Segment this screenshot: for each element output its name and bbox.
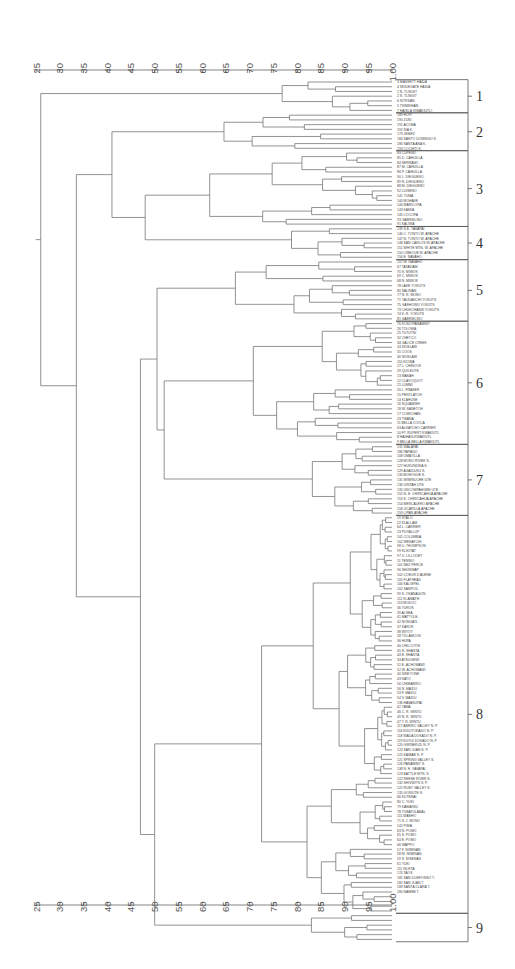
- leaf-label: 130 BOHOGUE S.: [397, 473, 425, 477]
- leaf-label: 13 MAKAH: [397, 374, 414, 378]
- leaf-label: 16 SQUAMISH: [397, 402, 420, 406]
- leaf-label: 38 WIYOT: [397, 630, 413, 634]
- leaf-label: 57 F. NISENAN: [397, 848, 421, 852]
- leaf-label: 45 N. SHASTA: [397, 649, 420, 653]
- leaf-label: 7 HAISLA (KWAKIUTL): [397, 109, 432, 113]
- leaf-label: 25 TUTUTNI: [397, 331, 416, 335]
- axis-tick-label: 30: [54, 63, 65, 74]
- axis-tick-label: 90: [339, 901, 350, 912]
- leaf-label: 170 TAOS: [397, 871, 413, 875]
- leaf-label: 58 M. NISENAN: [397, 852, 422, 856]
- leaf-label: 108 UMATILLA: [397, 454, 421, 458]
- leaf-label: 78 LAKE YOKUTS: [397, 284, 426, 288]
- leaf-label: 37 KAROK: [397, 625, 414, 629]
- leaf-label: 138 N. E. YAVAPAI: [397, 767, 426, 771]
- leaf-label: 63 N. POMO: [397, 829, 417, 833]
- leaf-label: 115 WASHO: [397, 814, 416, 818]
- similarity-axis-top: 2530354045505560657075808590951.00: [31, 63, 398, 82]
- leaf-label: 64 E. POMO: [397, 838, 417, 842]
- leaf-label: 68 N. MIWOK: [397, 279, 419, 283]
- axis-tick-label: 50: [149, 63, 160, 74]
- leaf-label: 120 GWINEKUD N. P.: [397, 743, 431, 747]
- leaf-label: 144 MARICOPA: [397, 203, 422, 207]
- leaf-label: 66 KUTENAI: [397, 795, 416, 799]
- leaf-label: 29 QUILEUTE: [397, 369, 419, 373]
- leaf-label: 193 COCHITI K.: [397, 147, 422, 151]
- leaf-label: 186 PAPAGO: [397, 450, 418, 454]
- leaf-label: 70 S. MIWOK: [397, 270, 418, 274]
- leaf-label: 157 W. NAVAHO: [397, 260, 423, 264]
- leaf-label: 152 N. E. CHIRICAHUA APACHE: [397, 492, 448, 496]
- leaf-label: 135 UNCOMPAHGRE UTE: [397, 488, 439, 492]
- leaf-label: 2 S. TLINGIT: [397, 94, 417, 98]
- axis-tick-label: 80: [292, 901, 303, 912]
- leaf-label: 41 MATTOLE: [397, 615, 418, 619]
- leaf-label: 61 YUKI: [397, 862, 410, 866]
- leaf-label: 40 CHILCOTIN: [397, 644, 421, 648]
- leaf-label: 98 U. THOMPSON: [397, 544, 426, 548]
- axis-tick-label: 85: [315, 901, 326, 912]
- leaf-label: 150 CIBECUE W. APACHE: [397, 251, 439, 255]
- leaf-label: 17 COWICHAN: [397, 412, 421, 416]
- leaf-label: 148 SAN CARLOS W. APACHE: [397, 241, 446, 245]
- leaf-label: 131 WALAPAI: [397, 445, 418, 449]
- leaf-label: 97 U. LILLOOET: [397, 554, 422, 558]
- leaf-label: 11 BELLA COOLA: [397, 421, 425, 425]
- leaf-label: 51 E. ACHOMAWI: [397, 663, 425, 667]
- leaf-label: 102 COEUR D'ALENE: [397, 573, 432, 577]
- leaf-label: 153 S. CHIRICAHUA APACHE: [397, 497, 444, 501]
- leaf-label: 46 C. R. WINTU: [397, 710, 422, 714]
- leaf-label: 129 AGAIDUKU S.: [397, 469, 425, 473]
- leaf-label: 102 WENATCHI: [397, 540, 421, 544]
- leaf-label: 146 C. TONTO W. APACHE: [397, 232, 440, 236]
- leaf-label: 65 S. POMO: [397, 833, 417, 837]
- axis-tick-label: 30: [54, 901, 65, 912]
- leaf-label: 6 SITKSAN: [397, 99, 415, 103]
- leaf-label: 77 N. R. MONO: [397, 293, 421, 297]
- leaf-label: 131 WIMINUCHE UTE: [397, 478, 432, 482]
- leaf-label: 34 GALICE CREEK: [397, 341, 428, 345]
- leaf-label: 75 GASHOWU YOKUTS: [397, 303, 435, 307]
- axis-tick-label: 70: [244, 63, 255, 74]
- axis-tick-label: 40: [102, 63, 113, 74]
- leaf-label: 123 BATTLE MTN. S.: [397, 772, 430, 776]
- cluster-number: 6: [476, 376, 483, 391]
- leaf-label: 87 M. CAHUILLA: [397, 165, 424, 169]
- axis-tick-label: 60: [197, 901, 208, 912]
- axis-tick-label: 90: [339, 63, 350, 74]
- leaf-label: 18 W. SANETCH: [397, 407, 423, 411]
- leaf-label: 71 S. J. MONO: [397, 819, 420, 823]
- leaf-label: 106 KALISPEL: [397, 582, 420, 586]
- leaf-label: 105 FLATHEAD: [397, 578, 422, 582]
- leaf-label: 32 CHETCO: [397, 336, 416, 340]
- axis-tick-label: 95: [363, 901, 374, 912]
- leaf-label: 78 TUBATULABAL: [397, 810, 426, 814]
- axis-tick-label: 25: [31, 63, 42, 74]
- leaf-label: 132 SHIVWITS S. P.: [397, 781, 428, 785]
- leaf-label: 113 MODOC: [397, 601, 417, 605]
- axis-tick-label: 45: [125, 63, 136, 74]
- leaf-label: 88 M. DIEGUENO: [397, 184, 425, 188]
- leaf-label: 21 LUMMI: [397, 383, 413, 387]
- similarity-axis-bottom: 2530354045505560657075808590951.00: [31, 894, 398, 913]
- leaf-label: 40 SINKYONE: [397, 672, 420, 676]
- axis-tick-label: 45: [125, 901, 136, 912]
- leaf-label: 112 KLAMATH: [397, 597, 420, 601]
- cluster-number: 4: [476, 236, 483, 251]
- leaf-label: 116 KIDUTOKADO N. P.: [397, 729, 434, 733]
- leaf-label: 128 MONO RIVER S.: [397, 459, 430, 463]
- leaf-label: 76 KOSO/PANAMINT: [397, 322, 430, 326]
- leaf-label: 44 E. SHASTA: [397, 653, 420, 657]
- leaf-label: 73 CHUKCHANSI YOKUTS: [397, 308, 440, 312]
- leaf-label: 3 MASSETT HAIDA: [397, 80, 428, 84]
- axis-tick-label: 35: [78, 63, 89, 74]
- leaf-label: 80 C. YUKI: [397, 800, 414, 804]
- leaf-label: 22 KLALLAM: [397, 521, 417, 525]
- leaf-label: 135 GOSIUTE S.: [397, 791, 423, 795]
- leaf-label: 39 ALSEA: [397, 611, 413, 615]
- leaf-label: 118 WADA DOKADO N. P.: [397, 734, 437, 738]
- cluster-number: 2: [476, 125, 483, 140]
- leaf-label: 136 HAVASUPAI: [397, 701, 422, 705]
- axis-tick-label: 75: [268, 901, 279, 912]
- leaf-label: 63 ALKATCHO CARRIER: [397, 426, 436, 430]
